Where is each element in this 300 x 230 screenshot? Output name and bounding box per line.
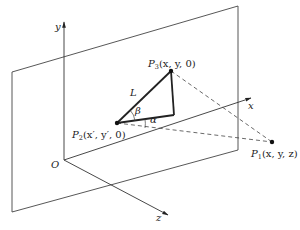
point-p1 — [270, 140, 274, 144]
dashed-p3-p1 — [171, 71, 272, 142]
z-axis — [64, 160, 168, 215]
x-axis-label: x — [248, 100, 254, 111]
alpha-label: α — [150, 114, 157, 125]
diagram-canvas: y x z O L β α P3(x, y, 0) P2(x′, y′, 0) … — [0, 0, 300, 230]
origin-label: O — [51, 159, 59, 170]
beta-label: β — [134, 105, 141, 116]
point-p3 — [169, 69, 173, 73]
triangle-vertical — [171, 71, 174, 115]
line-l — [117, 71, 171, 123]
z-axis-label: z — [155, 212, 162, 223]
length-label: L — [129, 87, 137, 98]
y-axis-label: y — [54, 21, 61, 32]
p1-label: P1(x, y, z) — [250, 148, 298, 161]
projection-plane — [12, 6, 238, 212]
dashed-p2-p1 — [117, 123, 272, 142]
p2-label: P2(x′, y′, 0) — [71, 129, 126, 142]
point-p2 — [115, 121, 119, 125]
